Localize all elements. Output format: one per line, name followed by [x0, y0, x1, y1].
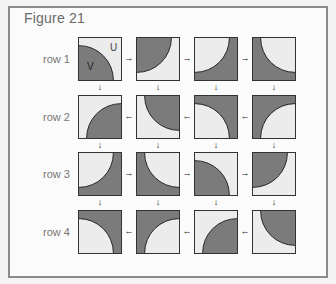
v-region-label: V [87, 61, 94, 72]
tile [252, 210, 296, 254]
tile [78, 210, 122, 254]
tile [194, 37, 238, 81]
tile [136, 37, 180, 81]
arrow-right-icon: → [124, 54, 134, 63]
arrow-down-icon: ↓ [211, 198, 221, 207]
arrow-down-icon: ↓ [95, 83, 105, 92]
tile [194, 210, 238, 254]
arrow-down-icon: ↓ [269, 141, 279, 150]
arrow-down-icon: ↓ [269, 198, 279, 207]
arrow-right-icon: → [124, 169, 134, 178]
row-label: row 2 [22, 111, 70, 123]
arrow-down-icon: ↓ [95, 198, 105, 207]
tile [252, 152, 296, 196]
tile [78, 95, 122, 139]
arrow-left-icon: ← [182, 227, 192, 236]
arrow-left-icon: ← [240, 227, 250, 236]
tile [252, 37, 296, 81]
arrow-down-icon: ↓ [153, 83, 163, 92]
arrow-left-icon: ← [182, 112, 192, 121]
row-label: row 3 [22, 168, 70, 180]
arrow-right-icon: → [182, 54, 192, 63]
arrow-down-icon: ↓ [153, 141, 163, 150]
tile [78, 152, 122, 196]
arrow-down-icon: ↓ [153, 198, 163, 207]
tile [136, 152, 180, 196]
row-label: row 4 [22, 226, 70, 238]
arrow-right-icon: → [182, 169, 192, 178]
row-label: row 1 [22, 53, 70, 65]
u-region-label: U [110, 42, 117, 53]
arrow-down-icon: ↓ [211, 141, 221, 150]
tile [194, 95, 238, 139]
tile [136, 210, 180, 254]
tile [194, 152, 238, 196]
arrow-left-icon: ← [124, 227, 134, 236]
arrow-left-icon: ← [240, 112, 250, 121]
arrow-down-icon: ↓ [211, 83, 221, 92]
arrow-down-icon: ↓ [95, 141, 105, 150]
arrow-left-icon: ← [124, 112, 134, 121]
tile [136, 95, 180, 139]
arrow-right-icon: → [240, 54, 250, 63]
arrow-down-icon: ↓ [269, 83, 279, 92]
arrow-right-icon: → [240, 169, 250, 178]
figure-title: Figure 21 [24, 10, 85, 26]
tile [252, 95, 296, 139]
